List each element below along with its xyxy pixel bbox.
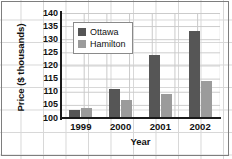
y-tick-label: 135 [32,22,58,31]
x-tick-label: 1999 [64,121,98,132]
y-tick-label: 140 [32,9,58,18]
y-axis-title: Price ($ thousands) [15,8,26,128]
bar-hamilton-2000 [121,100,132,118]
y-tick-label: 130 [32,35,58,44]
y-axis-tick-labels: 100105110115120125130135140 [29,0,58,159]
bar-ottawa-2000 [109,89,120,118]
bar-chart-figure: 100105110115120125130135140 199920002001… [0,0,232,159]
y-tick-label: 125 [32,48,58,57]
ottawa-swatch-icon [78,28,86,36]
chart-legend: Ottawa Hamilton [73,22,133,54]
y-tick-label: 100 [32,114,58,123]
bar-ottawa-2001 [149,55,160,118]
x-tick-label: 2002 [183,121,217,132]
x-tick-label: 2000 [104,121,138,132]
y-tick-label: 105 [32,100,58,109]
bar-hamilton-2002 [201,81,212,118]
y-tick-label: 115 [32,74,58,83]
x-axis-title: Year [61,136,220,147]
hamilton-swatch-icon [78,40,86,48]
x-tick-label: 2001 [143,121,177,132]
legend-label-hamilton: Hamilton [90,39,126,49]
y-tick-label: 110 [32,87,58,96]
y-tick-label: 120 [32,61,58,70]
legend-label-ottawa: Ottawa [90,27,119,37]
bar-ottawa-2002 [189,31,200,118]
x-axis-line [60,117,221,119]
y-axis-line [60,11,62,120]
legend-item-hamilton: Hamilton [78,38,126,50]
legend-item-ottawa: Ottawa [78,26,126,38]
bar-hamilton-2001 [161,94,172,118]
